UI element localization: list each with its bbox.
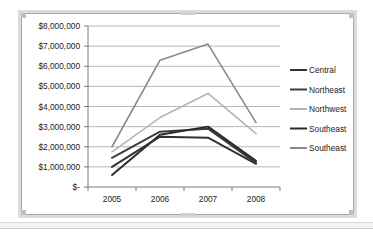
legend-label-0[interactable]: Central bbox=[309, 65, 336, 75]
y-axis-tick-labels: $8,000,000$7,000,000$6,000,000$5,000,000… bbox=[38, 21, 80, 192]
legend-label-1[interactable]: Northeast bbox=[309, 85, 346, 95]
y-axis-tick-label: $2,000,000 bbox=[38, 142, 80, 152]
chart-object-frame[interactable]: $8,000,000$7,000,000$6,000,000$5,000,000… bbox=[18, 10, 357, 218]
legend-label-4[interactable]: Southeast bbox=[309, 143, 347, 153]
y-axis-tick-marks bbox=[84, 26, 88, 187]
legend-label-2[interactable]: Northwest bbox=[309, 104, 347, 114]
legend-label-3[interactable]: Southeast bbox=[309, 124, 347, 134]
gridlines bbox=[88, 26, 280, 167]
series-line-2[interactable] bbox=[112, 93, 256, 151]
y-axis-tick-label: $6,000,000 bbox=[38, 61, 80, 71]
y-axis-tick-label: $- bbox=[73, 182, 81, 192]
chart-frame-border: $8,000,000$7,000,000$6,000,000$5,000,000… bbox=[21, 13, 354, 215]
y-axis-tick-label: $3,000,000 bbox=[38, 122, 80, 132]
chart-legend[interactable]: CentralNortheastNorthwestSoutheastSouthe… bbox=[290, 65, 347, 153]
y-axis-tick-label: $4,000,000 bbox=[38, 102, 80, 112]
x-axis-tick-marks bbox=[88, 187, 280, 191]
page-bottom-edge bbox=[0, 228, 373, 232]
x-axis-tick-label: 2005 bbox=[103, 194, 122, 204]
line-chart[interactable]: $8,000,000$7,000,000$6,000,000$5,000,000… bbox=[22, 14, 355, 216]
data-series-lines[interactable] bbox=[112, 44, 256, 175]
x-axis-tick-label: 2006 bbox=[151, 194, 170, 204]
y-axis-tick-label: $5,000,000 bbox=[38, 81, 80, 91]
chart-canvas: $8,000,000$7,000,000$6,000,000$5,000,000… bbox=[22, 14, 355, 216]
x-axis-tick-labels: 2005200620072008 bbox=[103, 194, 266, 204]
document-root: $8,000,000$7,000,000$6,000,000$5,000,000… bbox=[0, 0, 373, 232]
x-axis-tick-label: 2007 bbox=[199, 194, 218, 204]
series-line-0[interactable] bbox=[112, 137, 256, 167]
y-axis-tick-label: $7,000,000 bbox=[38, 41, 80, 51]
y-axis-tick-label: $1,000,000 bbox=[38, 162, 80, 172]
y-axis-tick-label: $8,000,000 bbox=[38, 21, 80, 31]
series-line-3[interactable] bbox=[112, 127, 256, 175]
x-axis-tick-label: 2008 bbox=[247, 194, 266, 204]
